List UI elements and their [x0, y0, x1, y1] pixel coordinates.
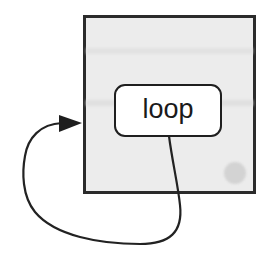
loop-node: loop — [114, 84, 222, 137]
arrowhead-icon — [59, 115, 82, 132]
background-band — [86, 48, 253, 54]
loop-node-label: loop — [142, 96, 193, 123]
diagram-canvas: loop — [0, 0, 272, 260]
marker-dot-icon — [224, 162, 246, 184]
